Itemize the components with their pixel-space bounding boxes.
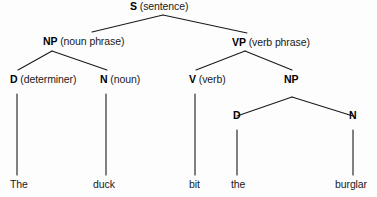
branch-s-to-vp [163, 15, 247, 33]
node-np-object: NP [284, 74, 298, 85]
node-n-object: N [349, 110, 356, 121]
node-vp-category: VP [232, 36, 246, 48]
branch-np-subject-to-d [18, 51, 52, 70]
leaf-duck: duck [93, 179, 115, 190]
branch-s-to-np-subject [92, 15, 163, 32]
branch-vp-to-np-object [245, 51, 292, 70]
leaf-the-subject: The [10, 179, 28, 190]
node-d-object-category: D [233, 109, 240, 121]
node-np-subject: NP (noun phrase) [43, 36, 124, 47]
syntax-tree-diagram: S (sentence) NP (noun phrase) VP (verb p… [0, 0, 377, 197]
node-vp: VP (verb phrase) [232, 37, 310, 48]
branch-np-subject-to-n [52, 51, 107, 70]
branch-vp-to-v [196, 51, 245, 70]
branch-np-object-to-d [237, 97, 292, 116]
node-v-gloss: (verb) [196, 73, 226, 85]
node-np-subject-gloss: (noun phrase) [57, 35, 124, 47]
node-n-object-category: N [349, 109, 356, 121]
node-vp-gloss: (verb phrase) [246, 36, 310, 48]
node-np-subject-category: NP [43, 35, 57, 47]
node-s: S (sentence) [130, 1, 188, 12]
branch-np-object-to-n [292, 97, 353, 116]
node-np-object-category: NP [284, 73, 298, 85]
node-d-subject-gloss: (determiner) [17, 73, 76, 85]
node-v: V (verb) [189, 74, 226, 85]
node-d-object: D [233, 110, 240, 121]
leaf-the-object: the [231, 179, 245, 190]
leaf-burglar: burglar [335, 179, 367, 190]
node-s-category: S [130, 0, 137, 12]
node-n-subject-gloss: (noun) [107, 73, 140, 85]
node-n-subject: N (noun) [100, 74, 140, 85]
tree-branch-lines [0, 0, 377, 197]
node-s-gloss: (sentence) [137, 0, 188, 12]
node-v-category: V [189, 73, 196, 85]
node-d-subject: D (determiner) [10, 74, 76, 85]
leaf-bit: bit [189, 179, 200, 190]
